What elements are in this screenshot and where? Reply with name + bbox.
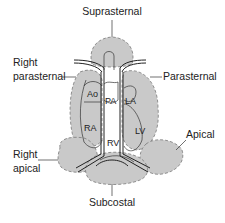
label-parasternal: Parasternal [163,70,217,82]
parasternal-window [122,71,158,150]
label-right-apical-2: apical [13,162,40,174]
label-ao: Ao [87,89,98,99]
apical-leader [176,140,186,150]
label-rv: RV [107,138,119,148]
label-la: LA [125,96,136,106]
label-right-parasternal-1: Right [13,56,38,68]
label-right-apical-1: Right [13,148,38,160]
label-ra: RA [84,123,97,133]
label-pa: PA [105,96,116,106]
right-parasternal-window [70,70,102,147]
label-right-parasternal-2: parasternal [13,70,66,82]
label-apical: Apical [186,128,215,140]
label-lv: LV [135,126,145,136]
echo-windows-diagram: Suprasternal Right parasternal Parastern… [0,0,225,223]
label-subcostal: Subcostal [89,196,135,208]
label-suprasternal: Suprasternal [82,5,142,17]
